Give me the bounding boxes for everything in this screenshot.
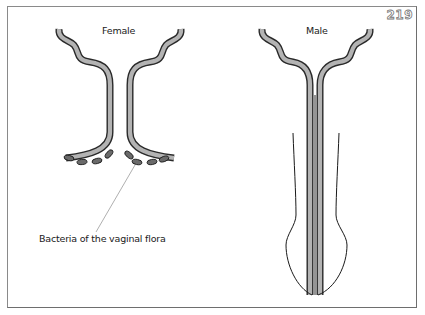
- male-urethra: [262, 29, 370, 295]
- leader-line: [96, 165, 135, 232]
- bacterium-icon: [147, 159, 158, 166]
- bacterium-icon: [123, 150, 134, 160]
- bacterium-icon: [77, 159, 87, 165]
- bacterium-icon: [132, 159, 143, 166]
- bacterium-icon: [92, 157, 103, 164]
- bacterium-icon: [104, 148, 114, 159]
- female-urethra-left: [59, 29, 110, 158]
- diagram-canvas: [0, 0, 425, 315]
- female-urethra-right: [130, 29, 181, 158]
